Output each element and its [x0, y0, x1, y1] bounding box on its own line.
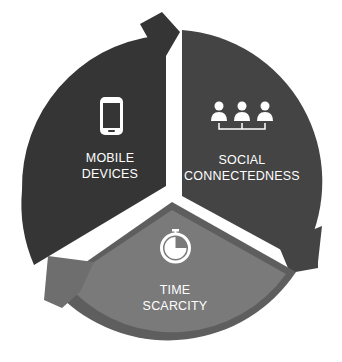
label-mobile-devices: MOBILE DEVICES: [70, 150, 150, 182]
label-time-scarcity: TIME SCARCITY: [135, 282, 215, 314]
label-time-line2: SCARCITY: [135, 298, 215, 314]
label-social-line2: CONNECTEDNESS: [180, 168, 304, 184]
cycle-diagram: MOBILE DEVICES SOCIAL CONNECTEDNESS TIME…: [0, 0, 342, 362]
label-mobile-line2: DEVICES: [70, 166, 150, 182]
label-time-line1: TIME: [135, 282, 215, 298]
label-social-connectedness: SOCIAL CONNECTEDNESS: [180, 152, 304, 184]
label-mobile-line1: MOBILE: [70, 150, 150, 166]
label-social-line1: SOCIAL: [180, 152, 304, 168]
smartphone-icon: [100, 97, 123, 135]
